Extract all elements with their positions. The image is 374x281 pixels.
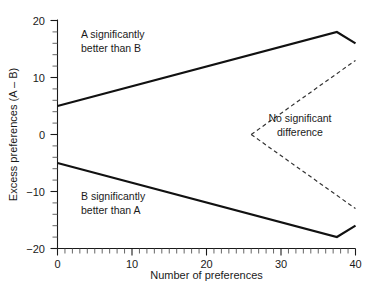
- x-tick-label-0: 0: [54, 258, 60, 270]
- x-axis-title: Number of preferences: [150, 269, 263, 281]
- y-tick-label-10: 10: [33, 72, 45, 84]
- significance-boundary-chart: 20 10 0 −10 −20: [0, 0, 374, 281]
- annotation-no-diff-line1: No significant: [268, 112, 331, 124]
- annotation-no-diff-line2: difference: [277, 126, 323, 138]
- x-tick-label-30: 30: [275, 258, 287, 270]
- y-tick-label-neg20: −20: [26, 243, 45, 255]
- annotation-a-better-line2: better than B: [81, 42, 141, 54]
- annotation-b-better-line1: B significantly: [81, 190, 146, 202]
- annotation-a-better-line1: A significantly: [81, 28, 145, 40]
- y-tick-label-0: 0: [39, 129, 45, 141]
- annotation-b-better-line2: better than A: [81, 204, 141, 216]
- annotation-no-significant-difference: No significant difference: [268, 112, 331, 138]
- y-tick-label-20: 20: [33, 15, 45, 27]
- y-axis-title: Excess preferences (A – B): [7, 68, 19, 201]
- x-tick-label-10: 10: [126, 258, 138, 270]
- annotation-b-better-than-a: B significantly better than A: [81, 190, 146, 216]
- x-tick-label-40: 40: [349, 258, 361, 270]
- annotation-a-better-than-b: A significantly better than B: [81, 28, 145, 54]
- no-difference-lower-boundary: [251, 135, 355, 209]
- y-tick-label-neg10: −10: [26, 186, 45, 198]
- chart-figure: 20 10 0 −10 −20: [0, 0, 374, 281]
